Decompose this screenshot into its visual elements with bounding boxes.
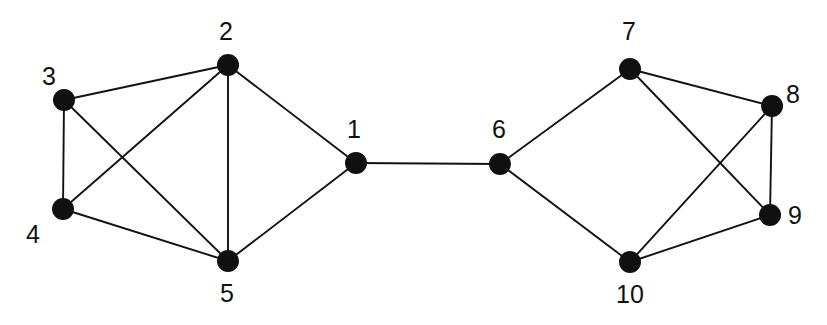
- graph-node-label-8: 8: [786, 80, 800, 108]
- graph-node-3[interactable]: [53, 89, 75, 111]
- label-layer: 12345678910: [26, 17, 802, 308]
- graph-node-9[interactable]: [759, 204, 781, 226]
- graph-node-6[interactable]: [489, 153, 511, 175]
- graph-edge-1-5: [228, 163, 356, 261]
- graph-canvas: 12345678910: [0, 0, 827, 325]
- graph-node-label-1: 1: [347, 115, 361, 143]
- graph-node-label-2: 2: [219, 17, 233, 45]
- graph-node-5[interactable]: [217, 250, 239, 272]
- edge-layer: [63, 65, 772, 262]
- graph-node-label-3: 3: [42, 62, 56, 90]
- graph-node-label-7: 7: [622, 17, 636, 45]
- graph-edge-4-5: [63, 209, 228, 261]
- graph-edge-6-10: [500, 164, 630, 262]
- graph-node-1[interactable]: [345, 152, 367, 174]
- graph-edge-7-9: [630, 69, 770, 215]
- graph-node-label-4: 4: [26, 220, 40, 248]
- graph-node-label-9: 9: [788, 201, 802, 229]
- graph-edge-3-4: [63, 100, 64, 209]
- graph-node-label-10: 10: [616, 280, 644, 308]
- graph-node-label-6: 6: [492, 115, 506, 143]
- graph-edge-1-2: [228, 65, 356, 163]
- graph-node-label-5: 5: [220, 279, 234, 307]
- graph-node-7[interactable]: [619, 58, 641, 80]
- graph-diagram: 12345678910: [0, 0, 827, 325]
- graph-edge-2-4: [63, 65, 228, 209]
- graph-edge-3-5: [64, 100, 228, 261]
- graph-node-10[interactable]: [619, 251, 641, 273]
- graph-edge-8-9: [770, 106, 772, 215]
- graph-edge-6-7: [500, 69, 630, 164]
- graph-edge-7-8: [630, 69, 772, 106]
- graph-edge-2-3: [64, 65, 228, 100]
- graph-node-8[interactable]: [761, 95, 783, 117]
- graph-node-4[interactable]: [52, 198, 74, 220]
- graph-node-2[interactable]: [217, 54, 239, 76]
- graph-edge-1-6: [356, 163, 500, 164]
